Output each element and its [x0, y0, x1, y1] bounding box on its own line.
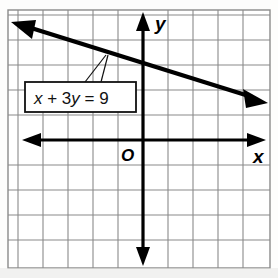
- scan-shadow-artifact: [0, 268, 278, 278]
- coordinate-grid-figure: x + 3y = 9 y x O: [0, 0, 278, 278]
- origin-label: O: [121, 146, 134, 165]
- equation-part-x: x: [33, 89, 43, 108]
- y-axis-label: y: [154, 13, 167, 34]
- equation-callout: x + 3y = 9: [25, 82, 136, 112]
- equation-text: x + 3y = 9: [33, 89, 109, 108]
- graph-svg: x + 3y = 9 y x O: [0, 0, 278, 278]
- x-axis-label: x: [252, 146, 265, 167]
- equation-part-plus: + 3: [43, 89, 72, 108]
- equation-part-equals: = 9: [80, 89, 109, 108]
